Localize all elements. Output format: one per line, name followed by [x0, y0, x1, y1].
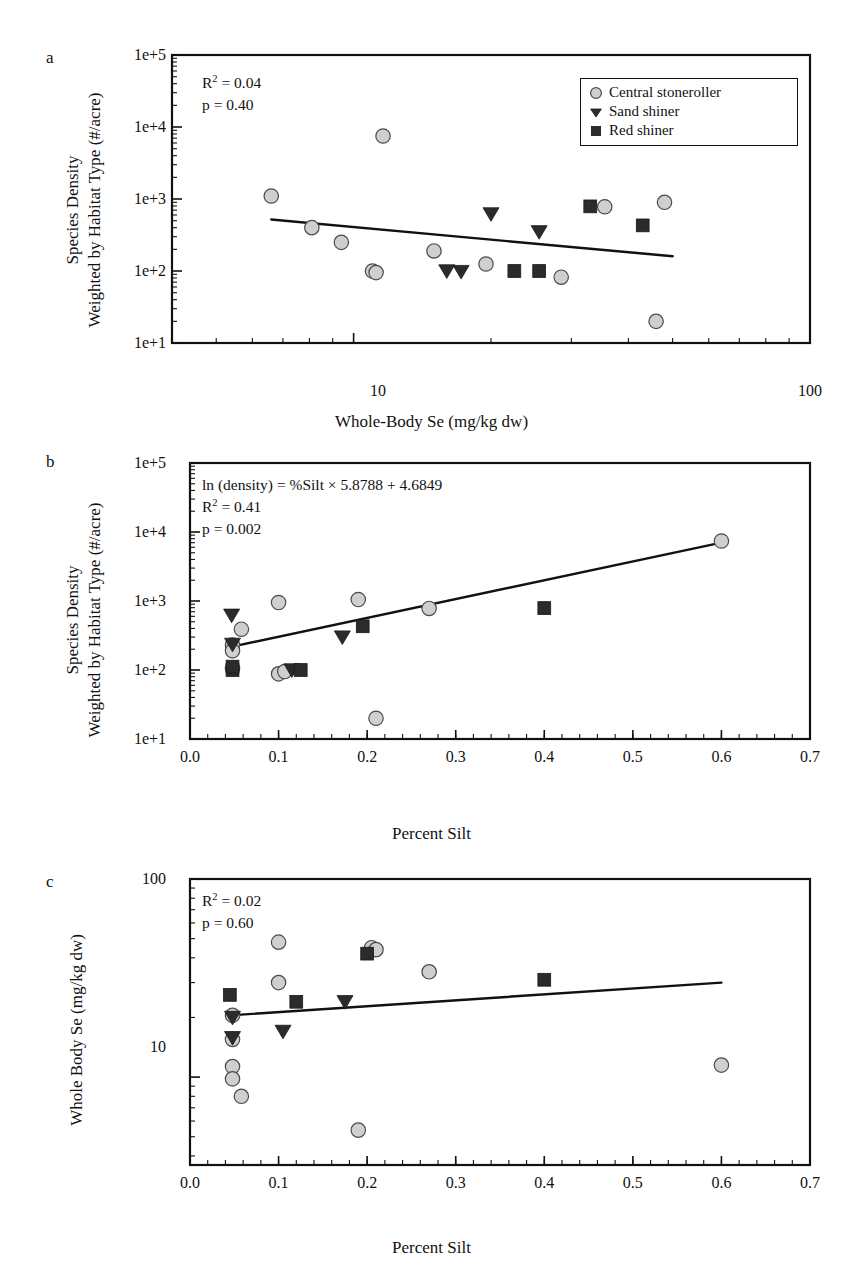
data-point-square	[533, 265, 546, 278]
data-point-triangle	[453, 265, 469, 279]
regression-line	[230, 543, 722, 647]
panel-c: c Whole Body Se (mg/kg dw) 100 10 R2 = 0…	[0, 860, 863, 1276]
data-point-triangle	[531, 226, 547, 240]
x-tick-label: 0.6	[699, 1174, 743, 1192]
data-point-circle	[714, 534, 728, 548]
data-point-square	[508, 265, 521, 278]
data-point-circle	[271, 975, 285, 989]
x-tick-label: 0.7	[788, 748, 832, 766]
data-point-circle	[649, 314, 663, 328]
panel-c-plot-area	[0, 860, 863, 1276]
data-point-square	[538, 973, 551, 986]
data-point-square	[538, 602, 551, 615]
data-point-circle	[714, 1058, 728, 1072]
data-point-square	[223, 988, 236, 1001]
x-tick-label: 0.4	[522, 1174, 566, 1192]
x-tick-label: 0.1	[257, 748, 301, 766]
panel-b-plot-area	[0, 430, 863, 860]
data-point-circle	[351, 1123, 365, 1137]
data-point-circle	[376, 129, 390, 143]
data-point-circle	[427, 244, 441, 258]
panel-a: a Species Density Weighted by Habitat Ty…	[0, 0, 863, 430]
data-point-circle	[554, 270, 568, 284]
data-point-square	[294, 664, 307, 677]
data-point-triangle	[275, 1025, 291, 1039]
data-point-circle	[264, 189, 278, 203]
data-point-triangle	[483, 208, 499, 222]
data-point-circle	[422, 601, 436, 615]
data-point-circle	[598, 200, 612, 214]
data-point-circle	[334, 235, 348, 249]
x-tick-label: 0.6	[699, 748, 743, 766]
plot-frame	[190, 879, 810, 1165]
data-point-circle	[225, 1072, 239, 1086]
data-point-circle	[479, 257, 493, 271]
x-tick-label: 0.1	[257, 1174, 301, 1192]
data-point-triangle	[439, 265, 455, 279]
x-tick-label: 0.2	[345, 1174, 389, 1192]
data-point-circle	[234, 1089, 248, 1103]
x-tick-label: 0.3	[434, 1174, 478, 1192]
data-point-square	[226, 660, 239, 673]
regression-line	[271, 219, 672, 256]
x-tick-label: 0.2	[345, 748, 389, 766]
data-point-circle	[271, 595, 285, 609]
x-tick-label: 0.3	[434, 748, 478, 766]
data-point-square	[584, 200, 597, 213]
x-tick-label: 0.5	[611, 748, 655, 766]
x-tick-label: 0.7	[788, 1174, 832, 1192]
data-point-circle	[657, 195, 671, 209]
data-point-circle	[369, 711, 383, 725]
x-tick-label: 0.4	[522, 748, 566, 766]
data-point-circle	[369, 265, 383, 279]
panel-b: b Species Density Weighted by Habitat Ty…	[0, 430, 863, 860]
data-point-square	[361, 947, 374, 960]
data-point-circle	[351, 592, 365, 606]
data-point-square	[636, 219, 649, 232]
data-point-triangle	[224, 609, 240, 623]
figure-container: a Species Density Weighted by Habitat Ty…	[0, 0, 863, 1276]
data-point-circle	[271, 935, 285, 949]
data-point-square	[356, 620, 369, 633]
panel-a-plot-area	[0, 0, 863, 430]
data-point-circle	[422, 965, 436, 979]
x-tick-label: 0.5	[611, 1174, 655, 1192]
data-point-triangle	[334, 631, 350, 645]
x-tick-label: 0.0	[168, 748, 212, 766]
data-point-circle	[234, 622, 248, 636]
x-tick-label: 0.0	[168, 1174, 212, 1192]
regression-line	[230, 983, 722, 1016]
data-point-square	[290, 995, 303, 1008]
data-point-circle	[305, 220, 319, 234]
